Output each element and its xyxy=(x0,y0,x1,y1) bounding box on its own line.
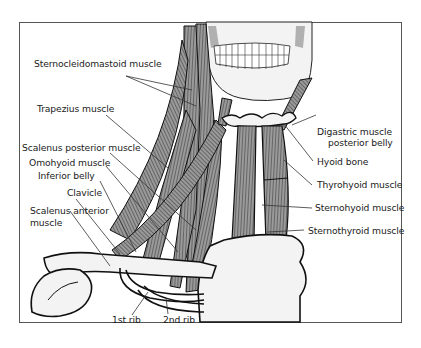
label-digastric-posterior-belly: posterior belly xyxy=(328,137,393,148)
label-trapezius: Trapezius muscle xyxy=(37,103,114,114)
label-scalenus-posterior: Scalenus posterior muscle xyxy=(22,142,141,153)
label-thyrohyoid: Thyrohyoid muscle xyxy=(317,179,402,190)
shoulder-acromion xyxy=(31,269,91,317)
label-sternohyoid: Sternohyoid muscle xyxy=(315,202,404,213)
label-hyoid-bone: Hyoid bone xyxy=(317,156,368,167)
label-inferior-belly: Inferior belly xyxy=(38,170,95,181)
label-scalenus-anterior-cont: muscle xyxy=(30,217,62,228)
label-sternothyroid: Sternothyroid muscle xyxy=(308,225,404,236)
thyrohyoid-sternothyroid-muscle xyxy=(262,126,288,242)
label-sternocleidomastoid: Sternocleidomastoid muscle xyxy=(34,58,162,69)
label-2nd-rib: 2nd rib xyxy=(163,314,195,325)
label-digastric: Digastric muscle xyxy=(317,126,392,137)
sternum xyxy=(198,235,306,322)
label-scalenus-anterior: Scalenus anterior xyxy=(30,205,109,216)
label-1st-rib: 1st rib xyxy=(112,314,141,325)
label-clavicle: Clavicle xyxy=(67,187,102,198)
sternohyoid-muscle xyxy=(232,126,256,242)
label-omohyoid: Omohyoid muscle xyxy=(29,157,110,168)
